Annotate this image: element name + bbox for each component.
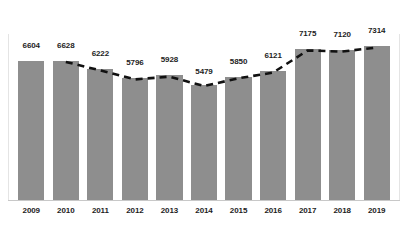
category-label: 2019 (368, 206, 385, 215)
category-label: 2013 (161, 206, 178, 215)
bar-value-label: 6628 (57, 41, 74, 50)
category-label: 2018 (333, 206, 350, 215)
category-label: 2009 (23, 206, 40, 215)
bar-value-label: 7175 (299, 29, 316, 38)
plot-area: 6604662862225796592854795850612171757120… (0, 0, 408, 236)
bar-value-label: 5850 (230, 57, 247, 66)
category-label: 2017 (299, 206, 316, 215)
category-label: 2010 (57, 206, 74, 215)
category-label: 2012 (126, 206, 143, 215)
bar-value-label: 6121 (264, 51, 281, 60)
bar-chart: 6604662862225796592854795850612171757120… (0, 0, 408, 236)
x-axis-line (8, 200, 400, 201)
bar-value-label: 7120 (333, 30, 350, 39)
category-label: 2016 (264, 206, 281, 215)
bar-value-label: 7314 (368, 26, 385, 35)
category-label: 2014 (195, 206, 212, 215)
category-label: 2015 (230, 206, 247, 215)
bar-value-label: 5796 (126, 58, 143, 67)
category-label: 2011 (92, 206, 109, 215)
bar-value-label: 5928 (161, 55, 178, 64)
bar-value-label: 6222 (92, 49, 109, 58)
bar-value-label: 6604 (23, 41, 40, 50)
bar-value-label: 5479 (195, 67, 212, 76)
